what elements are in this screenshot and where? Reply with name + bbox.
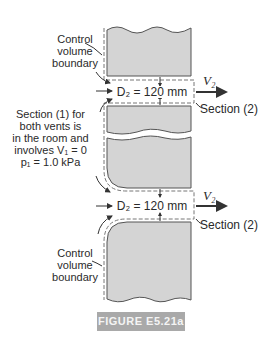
section1-line5: p₁ = 1.0 kPa	[8, 156, 93, 168]
cv-label-top-line3: boundary	[50, 57, 100, 69]
cv-label-top-line2: volume	[50, 45, 100, 57]
v2-label-bottom: V₂	[203, 190, 215, 202]
section2-label-top: Section (2)	[200, 103, 258, 115]
section2-label-bottom: Section (2)	[200, 219, 258, 231]
cv-label-bottom-line1: Control	[50, 247, 100, 259]
cv-label-bottom-line3: boundary	[50, 271, 100, 283]
cv-label-top-line1: Control	[50, 33, 100, 45]
section1-line4: involves V₁ = 0	[8, 144, 93, 156]
middle-wall-lower	[107, 136, 191, 188]
section1-line1: Section (1) for	[8, 108, 93, 120]
cv-label-bottom-line2: volume	[50, 259, 100, 271]
top-wall-block	[107, 27, 191, 76]
cv-label-bottom: Control volume boundary	[50, 247, 100, 283]
d2-label-top: D₂ = 120 mm	[116, 86, 188, 98]
section1-label: Section (1) for both vents is in the roo…	[8, 108, 93, 168]
middle-wall-upper	[107, 106, 191, 134]
section1-line3: in the room and	[8, 132, 93, 144]
d2-label-bottom: D₂ = 120 mm	[116, 200, 188, 212]
section1-line2: both vents is	[8, 120, 93, 132]
figure-caption: FIGURE E5.21a	[97, 312, 185, 331]
v2-label-top: V₂	[203, 75, 215, 87]
vent-diagram	[0, 0, 263, 341]
bottom-wall-block	[107, 222, 191, 302]
cv-label-top: Control volume boundary	[50, 33, 100, 69]
